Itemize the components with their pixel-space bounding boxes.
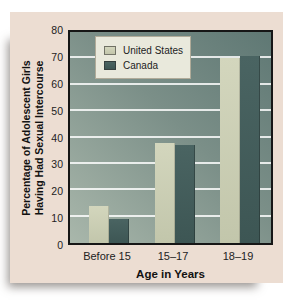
bar-canada-18-19: [240, 56, 260, 243]
bar-canada-before-15: [109, 219, 129, 243]
y-tick-label-40: 40: [35, 132, 63, 144]
x-category-label-18-19: 18–19: [223, 250, 254, 262]
bar-united-states-before-15: [89, 206, 109, 243]
y-tick-label-10: 10: [35, 212, 63, 224]
y-axis-title-line1: Percentage of Adolescent Girls: [20, 60, 32, 215]
y-tick-label-80: 80: [35, 24, 63, 36]
y-tick-label-50: 50: [35, 105, 63, 117]
legend-label-canada: Canada: [123, 60, 158, 71]
x-axis-title: Age in Years: [68, 268, 273, 280]
x-category-label-before-15: Before 15: [83, 250, 131, 262]
y-tick-label-60: 60: [35, 78, 63, 90]
legend-swatch-canada: [104, 61, 116, 70]
legend-row-canada: Canada: [104, 58, 184, 73]
page: Percentage of Adolescent GirlsHaving Had…: [0, 0, 294, 302]
y-tick-label-20: 20: [35, 185, 63, 197]
legend-label-united-states: United States: [123, 45, 183, 56]
y-tick-label-70: 70: [35, 51, 63, 63]
y-tick-label-30: 30: [35, 158, 63, 170]
chart-panel: Percentage of Adolescent GirlsHaving Had…: [10, 12, 283, 283]
x-category-label-15-17: 15–17: [158, 250, 189, 262]
bar-united-states-18-19: [220, 58, 240, 243]
legend-row-united-states: United States: [104, 43, 184, 58]
legend: United States Canada: [95, 36, 191, 79]
legend-swatch-united-states: [104, 46, 116, 55]
y-tick-label-0: 0: [35, 239, 63, 251]
bar-united-states-15-17: [155, 143, 175, 243]
bar-canada-15-17: [175, 145, 195, 243]
